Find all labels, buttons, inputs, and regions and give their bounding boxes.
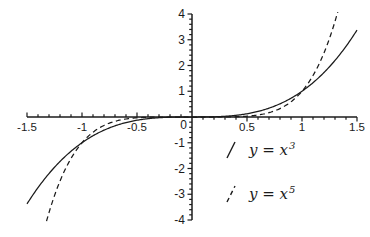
svg-text:1.5: 1.5 — [349, 121, 365, 133]
legend-marker-solid — [224, 140, 238, 160]
legend-label-x5: y = x5 — [249, 185, 295, 203]
svg-text:-0.5: -0.5 — [127, 121, 147, 133]
legend-label-x5-base: y = x — [249, 185, 288, 203]
svg-text:-3: -3 — [174, 187, 185, 201]
legend-marker-solid-line — [227, 142, 235, 158]
legend-label-x5-exponent: 5 — [289, 184, 295, 195]
svg-text:-1: -1 — [174, 136, 185, 150]
svg-text:2: 2 — [178, 59, 185, 73]
svg-text:1: 1 — [299, 121, 305, 133]
svg-text:-4: -4 — [174, 213, 185, 227]
legend-entry-x3: y = x3 — [224, 140, 295, 160]
legend-label-x3: y = x3 — [249, 141, 295, 159]
legend-marker-dashed-line — [227, 186, 235, 202]
svg-text:3: 3 — [178, 33, 185, 47]
svg-text:0.5: 0.5 — [239, 121, 255, 133]
plot-svg: -1.5-1-0.50.511.5-4-3-2-112340 — [0, 0, 370, 237]
legend-marker-dashed — [224, 184, 238, 204]
legend-label-x3-exponent: 3 — [289, 140, 295, 151]
function-plot-figure: -1.5-1-0.50.511.5-4-3-2-112340 y = x3 y … — [0, 0, 370, 237]
svg-text:-2: -2 — [174, 162, 185, 176]
svg-text:-1: -1 — [77, 121, 87, 133]
origin-label: 0 — [180, 118, 187, 132]
svg-text:4: 4 — [178, 7, 185, 21]
svg-text:1: 1 — [178, 84, 185, 98]
legend-entry-x5: y = x5 — [224, 184, 295, 204]
legend-label-x3-base: y = x — [249, 141, 288, 159]
svg-text:-1.5: -1.5 — [17, 121, 37, 133]
